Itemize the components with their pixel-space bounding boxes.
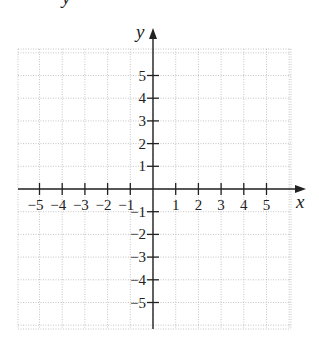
x-tick-label: −4 (50, 197, 66, 213)
y-tick-label: −2 (130, 226, 146, 242)
y-tick-label: 2 (139, 136, 147, 152)
top-fragment-text: y (60, 0, 71, 8)
x-tick-label: 2 (195, 197, 203, 213)
y-tick-label: −5 (130, 295, 146, 311)
x-tick-label: 1 (172, 197, 180, 213)
y-tick-label: −4 (130, 272, 146, 288)
x-axis-label: x (295, 191, 305, 212)
y-tick-label: 4 (139, 90, 147, 106)
x-tick-label: 4 (240, 197, 248, 213)
x-tick-label: −2 (96, 197, 112, 213)
y-tick-label: −3 (130, 249, 146, 265)
x-tick-label: 3 (217, 197, 225, 213)
axes (18, 28, 306, 329)
y-axis-label: y (134, 21, 145, 42)
x-tick-label: 5 (263, 197, 271, 213)
y-axis-arrow-icon (149, 28, 157, 39)
y-tick-label: 3 (139, 113, 147, 129)
coordinate-plane: −5−4−3−2−11234554321−1−2−3−4−5 x y y (0, 0, 319, 339)
y-tick-label: 1 (139, 158, 147, 174)
y-tick-label: −1 (130, 204, 146, 220)
x-tick-label: −5 (28, 197, 44, 213)
x-tick-label: −3 (73, 197, 89, 213)
y-tick-label: 5 (139, 68, 147, 84)
